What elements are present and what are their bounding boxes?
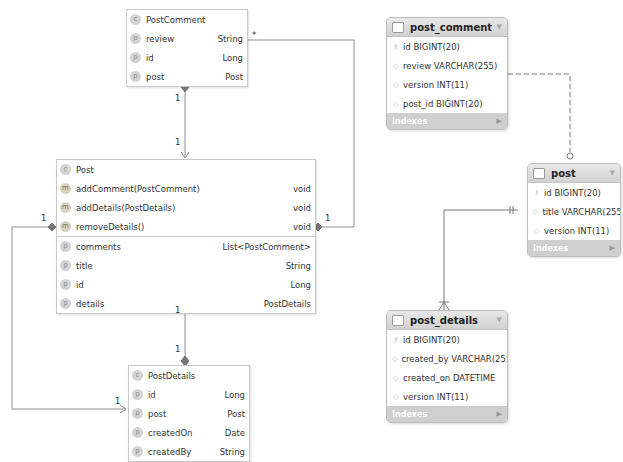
column-label: review VARCHAR(255) xyxy=(403,61,497,71)
key-icon: ⚷ xyxy=(392,336,399,344)
column-label: id BIGINT(20) xyxy=(403,335,460,345)
er-table-post-details[interactable]: post_details ▼ ⚷id BIGINT(20) ◇created_b… xyxy=(386,310,508,423)
field-row[interactable]: pidLong xyxy=(57,275,315,294)
column-row[interactable]: ⚷id BIGINT(20) xyxy=(387,330,507,349)
table-icon xyxy=(533,168,545,179)
column-diamond-icon: ◇ xyxy=(392,393,399,401)
field-row[interactable]: pidLong xyxy=(127,48,247,67)
dropdown-icon[interactable]: ▼ xyxy=(497,23,502,31)
field-row[interactable]: pcreatedOnDate xyxy=(129,423,249,442)
field-name: post xyxy=(146,72,225,82)
table-header[interactable]: post ▼ xyxy=(528,164,620,183)
property-icon: p xyxy=(132,389,143,400)
composition-diamond-details-left xyxy=(48,223,56,231)
method-row[interactable]: maddComment(PostComment)void xyxy=(57,179,315,198)
column-diamond-icon: ◇ xyxy=(392,81,399,89)
indexes-section[interactable]: Indexes▶ xyxy=(387,406,507,422)
field-row[interactable]: previewString xyxy=(127,29,247,48)
method-name: addDetails(PostDetails) xyxy=(76,203,293,213)
indexes-section[interactable]: Indexes▶ xyxy=(387,113,507,129)
return-type: void xyxy=(293,222,311,232)
column-row[interactable]: ◇version INT(11) xyxy=(387,75,507,94)
field-type: Long xyxy=(290,280,311,290)
field-row[interactable]: pidLong xyxy=(129,385,249,404)
field-row[interactable]: ptitleString xyxy=(57,256,315,275)
column-row[interactable]: ◇title VARCHAR(255) xyxy=(528,202,620,221)
multiplicity-label: 1 xyxy=(175,137,180,147)
column-row[interactable]: ◇version INT(11) xyxy=(387,387,507,406)
fk-post-details xyxy=(444,210,518,310)
property-icon: p xyxy=(130,33,141,44)
column-diamond-icon: ◇ xyxy=(392,62,399,70)
property-icon: p xyxy=(60,279,71,290)
field-type: String xyxy=(220,447,245,457)
er-table-post-comment[interactable]: post_comment ▼ ⚷id BIGINT(20) ◇review VA… xyxy=(386,17,508,130)
column-diamond-icon: ◇ xyxy=(392,355,397,363)
method-row[interactable]: mremoveDetails()void xyxy=(57,217,315,236)
expand-arrow-icon[interactable]: ▶ xyxy=(610,244,615,252)
method-name: removeDetails() xyxy=(76,222,293,232)
class-icon: c xyxy=(130,14,141,25)
field-row[interactable]: pcreatedByString xyxy=(129,442,249,461)
table-name: post xyxy=(551,168,610,179)
table-header[interactable]: post_details ▼ xyxy=(387,311,507,330)
dropdown-icon[interactable]: ▼ xyxy=(497,316,502,324)
table-icon xyxy=(392,315,404,326)
table-header[interactable]: post_comment ▼ xyxy=(387,18,507,37)
field-type: Post xyxy=(225,72,243,82)
column-label: created_on DATETIME xyxy=(403,373,495,383)
multiplicity-label: 1 xyxy=(325,213,330,223)
multiplicity-label: 1 xyxy=(175,305,180,315)
indexes-section[interactable]: Indexes▶ xyxy=(528,240,620,256)
column-row[interactable]: ⚷id BIGINT(20) xyxy=(387,37,507,56)
property-icon: p xyxy=(132,408,143,419)
field-name: comments xyxy=(76,242,222,252)
table-name: post_comment xyxy=(410,22,497,33)
field-type: Date xyxy=(225,428,245,438)
indexes-label: Indexes xyxy=(533,244,610,253)
property-icon: p xyxy=(130,52,141,63)
multiplicity-label: 1 xyxy=(175,344,180,354)
expand-arrow-icon[interactable]: ▶ xyxy=(497,410,502,418)
key-icon: ⚷ xyxy=(533,189,540,197)
column-label: id BIGINT(20) xyxy=(544,188,601,198)
field-name: createdBy xyxy=(148,447,220,457)
column-diamond-icon: ◇ xyxy=(392,100,399,108)
field-type: String xyxy=(218,34,243,44)
expand-arrow-icon[interactable]: ▶ xyxy=(497,117,502,125)
uml-class-postdetails[interactable]: c PostDetails pidLong ppostPost pcreated… xyxy=(128,365,250,462)
class-icon: c xyxy=(60,164,71,175)
column-row[interactable]: ◇version INT(11) xyxy=(528,221,620,240)
field-row[interactable]: pdetailsPostDetails xyxy=(57,294,315,313)
column-label: title VARCHAR(255) xyxy=(542,207,621,217)
property-icon: p xyxy=(130,71,141,82)
method-row[interactable]: maddDetails(PostDetails)void xyxy=(57,198,315,217)
column-row[interactable]: ◇created_by VARCHAR(255) xyxy=(387,349,507,368)
field-name: id xyxy=(148,390,224,400)
field-name: id xyxy=(76,280,290,290)
dropdown-icon[interactable]: ▼ xyxy=(610,169,615,177)
column-row[interactable]: ◇created_on DATETIME xyxy=(387,368,507,387)
field-row[interactable]: ppostPost xyxy=(127,67,247,86)
column-row[interactable]: ⚷id BIGINT(20) xyxy=(528,183,620,202)
multiplicity-label: * xyxy=(252,30,256,40)
column-label: version INT(11) xyxy=(403,80,468,90)
er-table-post[interactable]: post ▼ ⚷id BIGINT(20) ◇title VARCHAR(255… xyxy=(527,163,621,257)
field-name: details xyxy=(76,299,264,309)
uml-class-postcomment[interactable]: c PostComment previewString pidLong ppos… xyxy=(126,9,248,87)
field-name: review xyxy=(146,34,218,44)
class-icon: c xyxy=(132,370,143,381)
field-name: createdOn xyxy=(148,428,225,438)
field-row[interactable]: pcommentsList<PostComment> xyxy=(57,236,315,256)
property-icon: p xyxy=(132,427,143,438)
table-icon xyxy=(392,22,404,33)
class-header: c PostDetails xyxy=(129,366,249,385)
uml-class-post[interactable]: c Post maddComment(PostComment)void madd… xyxy=(56,159,316,314)
column-row[interactable]: ◇review VARCHAR(255) xyxy=(387,56,507,75)
field-name: id xyxy=(146,53,222,63)
property-icon: p xyxy=(60,298,71,309)
column-row[interactable]: ◇post_id BIGINT(20) xyxy=(387,94,507,113)
multiplicity-label: 1 xyxy=(175,93,180,103)
table-name: post_details xyxy=(410,315,497,326)
field-row[interactable]: ppostPost xyxy=(129,404,249,423)
